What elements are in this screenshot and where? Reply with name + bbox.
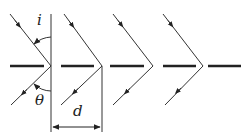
incidence-angle-label: i bbox=[37, 13, 42, 28]
spacing-label: d bbox=[73, 104, 83, 119]
ray-arrowheads bbox=[15, 21, 181, 94]
incidence-angle-arc bbox=[34, 37, 51, 44]
reflected-ray bbox=[11, 66, 51, 105]
reflected-ray bbox=[165, 66, 203, 105]
reflection-angle-arc bbox=[34, 84, 51, 91]
reflected-ray bbox=[61, 66, 102, 105]
reflected-ray bbox=[113, 66, 153, 105]
reflection-angle-label: θ bbox=[35, 93, 44, 108]
